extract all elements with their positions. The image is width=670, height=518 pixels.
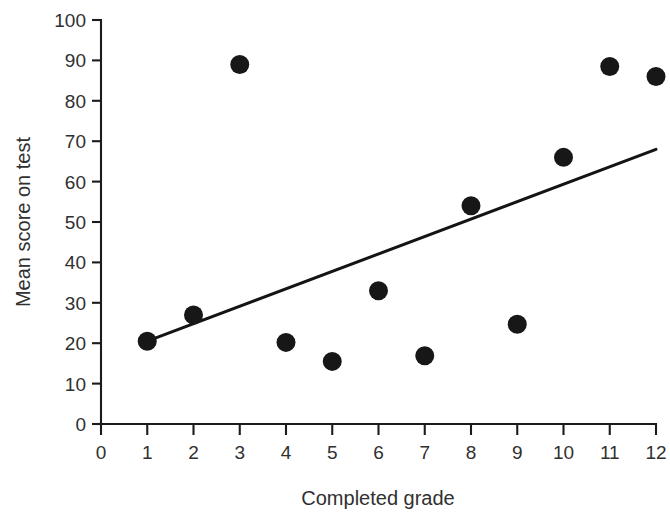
x-tick-label-8: 8 xyxy=(466,442,477,463)
y-axis-title: Mean score on test xyxy=(12,137,34,308)
x-axis-ticks xyxy=(101,424,656,435)
y-tick-label-10: 10 xyxy=(65,374,86,395)
data-point xyxy=(369,281,388,300)
x-tick-label-2: 2 xyxy=(188,442,199,463)
y-tick-label-30: 30 xyxy=(65,293,86,314)
data-point xyxy=(230,55,249,74)
y-axis-ticks xyxy=(92,20,101,424)
y-tick-label-0: 0 xyxy=(75,414,86,435)
x-tick-label-1: 1 xyxy=(142,442,153,463)
x-tick-label-6: 6 xyxy=(373,442,384,463)
x-axis-tick-labels: 0123456789101112 xyxy=(96,442,667,463)
data-point xyxy=(138,332,157,351)
x-axis-title: Completed grade xyxy=(301,487,454,509)
y-tick-label-20: 20 xyxy=(65,333,86,354)
data-point xyxy=(277,333,296,352)
data-point xyxy=(415,346,434,365)
y-tick-label-40: 40 xyxy=(65,252,86,273)
plot-area: 0102030405060708090100 0123456789101112 … xyxy=(0,0,670,518)
data-points xyxy=(138,55,666,371)
scatter-chart: 0102030405060708090100 0123456789101112 … xyxy=(0,0,670,518)
data-point xyxy=(554,148,573,167)
y-axis-tick-labels: 0102030405060708090100 xyxy=(54,10,86,435)
x-tick-label-3: 3 xyxy=(234,442,245,463)
y-tick-label-100: 100 xyxy=(54,10,86,31)
data-point xyxy=(647,67,666,86)
y-tick-label-70: 70 xyxy=(65,131,86,152)
y-tick-label-60: 60 xyxy=(65,172,86,193)
data-point xyxy=(600,57,619,76)
x-tick-label-7: 7 xyxy=(419,442,430,463)
x-tick-label-11: 11 xyxy=(600,442,620,463)
y-tick-label-90: 90 xyxy=(65,50,86,71)
x-tick-label-4: 4 xyxy=(281,442,292,463)
data-point xyxy=(323,352,342,371)
data-point xyxy=(508,315,527,334)
data-point xyxy=(462,196,481,215)
x-tick-label-5: 5 xyxy=(327,442,338,463)
data-point xyxy=(184,305,203,324)
trend-line xyxy=(147,149,656,341)
y-tick-label-80: 80 xyxy=(65,91,86,112)
x-tick-label-9: 9 xyxy=(512,442,523,463)
x-tick-label-10: 10 xyxy=(553,442,574,463)
x-tick-label-0: 0 xyxy=(96,442,107,463)
x-tick-label-12: 12 xyxy=(645,442,666,463)
y-tick-label-50: 50 xyxy=(65,212,86,233)
